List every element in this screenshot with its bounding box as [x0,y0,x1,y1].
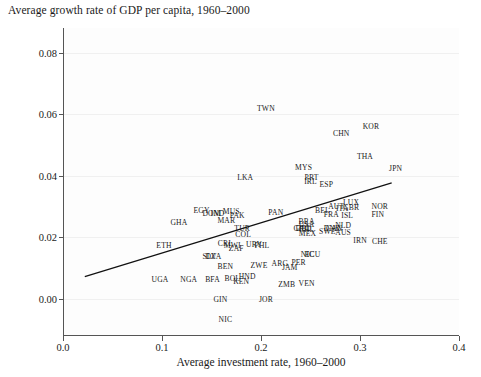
data-point-jor: JOR [259,295,273,304]
x-tick-label-1: 0.1 [155,342,168,353]
data-point-irn: IRN [353,236,367,245]
data-point-phl: PHL [255,240,270,249]
x-tick-label-2: 0.2 [254,342,267,353]
plot-background [63,28,459,336]
data-point-gin: GIN [213,295,227,304]
data-point-dza: DZA [205,252,221,261]
data-point-twn: TWN [257,104,275,113]
y-tick-label-3: 0.06 [39,109,57,120]
x-tick-label-3: 0.3 [353,342,366,353]
data-point-nic: NIC [219,314,233,323]
data-point-zaf: ZAF [229,244,244,253]
data-point-can: CAN [326,223,342,232]
page-title: Average growth rate of GDP per capita, 1… [8,4,250,16]
data-point-gha: GHA [170,217,187,226]
data-point-pan: PAN [268,207,283,216]
data-point-eth: ETH [156,240,171,249]
data-point-mys: MYS [295,162,312,171]
data-point-lka: LKA [237,173,253,182]
data-point-tha: THA [357,151,373,160]
data-point-zmb: ZMB [278,279,295,288]
data-point-uga: UGA [152,275,169,284]
y-axis-line [63,28,64,336]
data-point-bol: BOL [224,273,240,282]
data-point-ben: BEN [218,262,234,271]
data-point-zwe: ZWE [251,261,268,270]
data-point-jpn: JPN [389,163,402,172]
data-point-isl: ISL [341,211,353,220]
x-tick-mark-4 [459,336,460,341]
data-point-esp: ESP [320,179,334,188]
y-tick-mark-3 [59,114,63,115]
data-point-ind: IND [210,209,224,218]
y-tick-label-0: 0.00 [39,294,57,305]
y-tick-label-4: 0.08 [39,47,57,58]
data-point-ven: VEN [299,279,315,288]
gridline-y-3 [63,114,459,115]
data-point-kor: KOR [363,121,379,130]
y-tick-mark-4 [59,53,63,54]
x-tick-label-0: 0.0 [56,342,69,353]
x-tick-label-4: 0.4 [452,342,465,353]
gridline-y-2 [63,176,459,177]
data-point-bel: BEL [315,206,330,215]
y-tick-label-1: 0.02 [39,232,57,243]
plot-area: TWNCHNKORTHAJPNMYSLKAPRTIRLESPLUXAUTITAG… [63,28,459,336]
x-tick-mark-3 [360,336,361,341]
gridline-y-1 [63,237,459,238]
data-point-mex: MEX [299,229,316,238]
x-axis-title: Average investment rate, 1960–2000 [63,356,459,368]
data-point-nga: NGA [180,274,197,283]
x-tick-mark-1 [162,336,163,341]
y-tick-mark-1 [59,237,63,238]
data-point-chn: CHN [333,129,349,138]
y-tick-mark-2 [59,176,63,177]
y-tick-mark-0 [59,299,63,300]
chart-figure: Average growth rate of GDP per capita, 1… [0,0,481,377]
data-point-fin: FIN [371,210,384,219]
y-tick-label-2: 0.04 [39,170,57,181]
data-point-jam: JAM [282,262,298,271]
x-tick-mark-0 [63,336,64,341]
data-point-che: CHE [372,236,388,245]
data-point-col: COL [235,229,251,238]
data-point-irl: IRL [304,176,317,185]
x-tick-mark-2 [261,336,262,341]
data-point-bfa: BFA [205,274,220,283]
gridline-y-4 [63,53,459,54]
